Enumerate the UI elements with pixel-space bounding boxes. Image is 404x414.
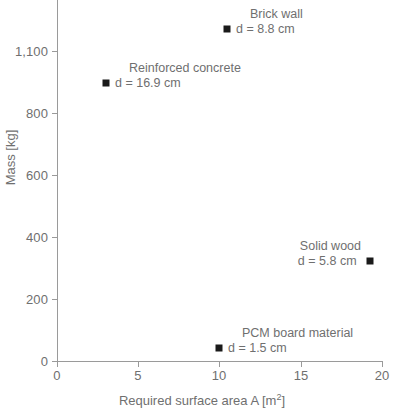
data-point-annotation: Solid wood d = 5.8 cm [298,239,361,269]
y-tick-label-0: 0 [0,354,48,369]
data-point-thickness: d = 5.8 cm [298,254,361,269]
y-tick-600 [52,175,58,176]
x-axis-title-text: Required surface area A [m [119,393,277,408]
y-axis-title: Mass [kg] [3,98,18,218]
x-tick-20 [382,361,383,367]
data-marker[interactable] [367,258,374,265]
data-point-name: Brick wall [250,7,303,22]
x-tick-15 [301,361,302,367]
y-axis-line [57,0,58,362]
data-point-annotation: PCM board material d = 1.5 cm [228,326,353,356]
y-tick-800 [52,113,58,114]
data-marker[interactable] [103,80,110,87]
x-tick-0 [57,361,58,367]
x-axis-title: Required surface area A [m2] [0,392,404,408]
x-tick-label-15: 15 [294,368,309,383]
y-tick-400 [52,237,58,238]
y-tick-200 [52,299,58,300]
scatter-chart: 0 200 400 600 800 1,100 0 5 10 15 20 Req… [0,0,404,414]
x-tick-5 [138,361,139,367]
x-tick-label-10: 10 [212,368,227,383]
x-tick-label-5: 5 [134,368,141,383]
data-point-thickness: d = 8.8 cm [236,22,303,37]
y-tick-label-1100: 1,100 [0,44,48,59]
x-tick-10 [219,361,220,367]
x-tick-label-20: 20 [375,368,390,383]
x-axis-title-bracket: ] [281,393,285,408]
data-point-name: PCM board material [242,326,353,341]
data-marker[interactable] [216,345,223,352]
y-tick-label-200: 200 [0,292,48,307]
y-tick-1100 [52,51,58,52]
data-point-name: Solid wood [300,239,361,254]
data-point-thickness: d = 16.9 cm [115,76,241,91]
data-point-thickness: d = 1.5 cm [228,341,353,356]
data-point-annotation: Brick wall d = 8.8 cm [236,7,303,37]
x-tick-label-0: 0 [53,368,60,383]
data-marker[interactable] [224,26,231,33]
y-tick-label-400: 400 [0,230,48,245]
data-point-annotation: Reinforced concrete d = 16.9 cm [115,61,241,91]
data-point-name: Reinforced concrete [129,61,241,76]
x-axis-line [57,361,383,362]
